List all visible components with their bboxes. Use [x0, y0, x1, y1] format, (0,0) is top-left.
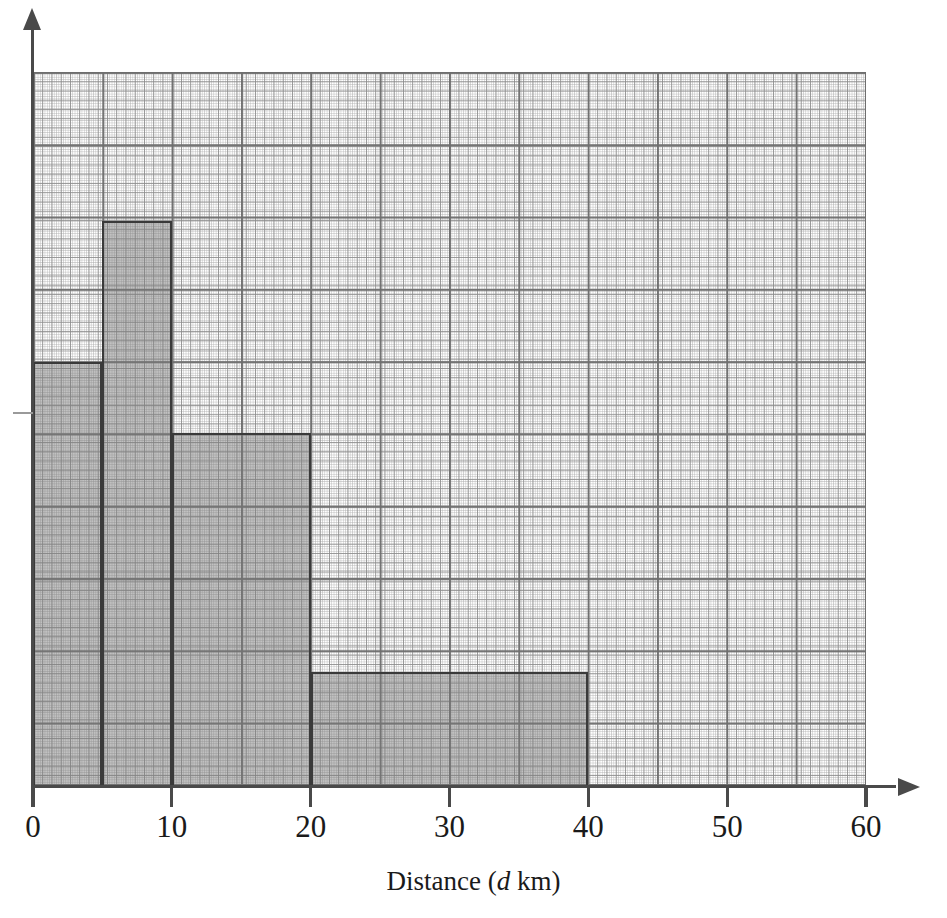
y-axis-tick-mark	[13, 412, 33, 414]
x-axis-line	[31, 785, 896, 788]
x-axis-title-prefix: Distance (	[387, 866, 497, 896]
histogram-bar-5-10	[102, 221, 171, 787]
y-axis-line	[31, 28, 34, 788]
x-axis-tick-0	[31, 788, 34, 807]
histogram-bar-0-5	[33, 362, 102, 787]
x-axis-tick-label-60: 60	[821, 811, 911, 842]
x-axis-tick-label-40: 40	[543, 811, 633, 842]
x-axis-tick-10	[170, 788, 173, 807]
x-axis-title-variable: d	[497, 866, 511, 896]
x-axis-title-suffix: km)	[510, 866, 560, 896]
x-axis-arrow-icon	[898, 778, 920, 796]
histogram-bar-10-20	[172, 433, 311, 788]
x-axis-tick-label-50: 50	[682, 811, 772, 842]
histogram-bar-20-40	[311, 672, 589, 787]
x-axis-tick-60	[864, 788, 867, 807]
x-axis-tick-20	[309, 788, 312, 807]
y-axis-arrow-icon	[23, 8, 41, 30]
x-axis-title: Distance (d km)	[0, 866, 947, 897]
x-axis-tick-40	[587, 788, 590, 807]
x-axis-tick-50	[726, 788, 729, 807]
histogram-figure: 0102030405060 Distance (d km)	[0, 0, 947, 918]
x-axis-tick-label-20: 20	[266, 811, 356, 842]
x-axis-tick-label-0: 0	[0, 811, 78, 842]
x-axis-tick-label-10: 10	[127, 811, 217, 842]
x-axis-tick-30	[448, 788, 451, 807]
x-axis-tick-label-30: 30	[404, 811, 494, 842]
